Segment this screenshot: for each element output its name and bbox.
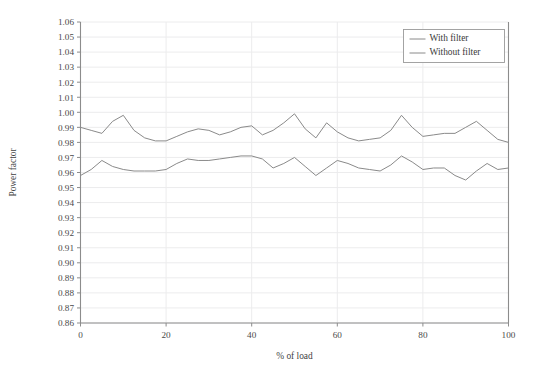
- x-tick-label: 40: [247, 330, 257, 340]
- y-tick-label: 1.06: [58, 17, 74, 27]
- y-tick-label: 0.93: [58, 213, 74, 223]
- chart-legend: With filterWithout filter: [404, 30, 505, 63]
- horizontal-gridlines: [81, 22, 509, 323]
- y-tick-label: 1.01: [58, 93, 74, 103]
- y-tick-label: 1.05: [58, 32, 74, 42]
- y-tick-label: 0.89: [58, 273, 74, 283]
- x-tick-label: 0: [78, 330, 83, 340]
- y-tick-label: 0.96: [58, 168, 74, 178]
- x-tick-label: 100: [502, 330, 516, 340]
- y-tick-label: 0.86: [58, 318, 74, 328]
- x-tick-label: 80: [418, 330, 428, 340]
- y-tick-label: 1.04: [58, 47, 74, 57]
- y-tick-label: 1.02: [58, 78, 74, 88]
- y-tick-label: 1.03: [58, 62, 74, 72]
- y-axis-title: Power factor: [8, 148, 18, 197]
- x-axis-title: % of load: [276, 351, 313, 361]
- y-tick-label: 0.94: [58, 198, 74, 208]
- x-tick-label: 60: [333, 330, 343, 340]
- y-tick-label: 0.88: [58, 288, 74, 298]
- y-tick-label: 0.90: [58, 258, 74, 268]
- y-tick-label: 0.95: [58, 183, 74, 193]
- y-tick-label: 0.99: [58, 123, 74, 133]
- power-factor-line-chart: 0.860.870.880.890.900.910.920.930.940.95…: [0, 0, 534, 379]
- x-tick-label: 20: [162, 330, 172, 340]
- y-tick-label: 1.00: [58, 108, 74, 118]
- y-tick-label: 0.91: [58, 243, 74, 253]
- y-tick-label: 0.97: [58, 153, 74, 163]
- y-tick-label: 0.87: [58, 303, 74, 313]
- legend-label-2: Without filter: [430, 47, 482, 57]
- y-tick-label: 0.92: [58, 228, 74, 238]
- chart-figure: 0.860.870.880.890.900.910.920.930.940.95…: [0, 0, 534, 379]
- legend-label-1: With filter: [430, 33, 470, 43]
- y-tick-label: 0.98: [58, 138, 74, 148]
